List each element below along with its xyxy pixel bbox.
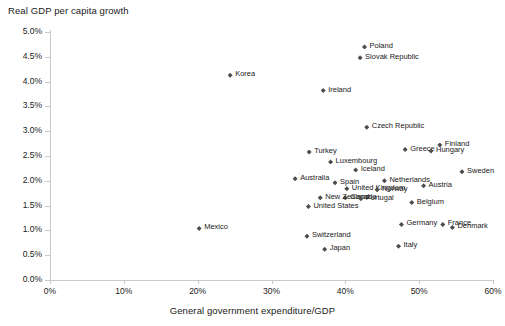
y-tick-label: 1.5% [2,201,42,210]
diamond-marker-icon [197,226,202,231]
x-axis-title: General government expenditure/GDP [0,305,505,316]
diamond-marker-icon [306,204,311,209]
diamond-marker-icon [318,195,323,200]
data-point-label: Ireland [328,86,351,94]
y-tick-label: 5.0% [2,27,42,36]
y-tick-label: 0.5% [2,250,42,259]
x-tick-label: 60% [473,287,505,296]
data-point-label: Sweden [467,167,494,175]
diamond-marker-icon [403,147,408,152]
diamond-marker-icon [293,176,298,181]
diamond-marker-icon [332,180,337,185]
diamond-marker-icon [322,247,327,252]
x-tick [50,280,51,284]
data-point-label: Italy [403,241,417,249]
data-point-label: Iceland [361,165,385,173]
data-point-label: Turkey [314,147,337,155]
x-tick [124,280,125,284]
data-point-label: United States [313,202,358,210]
diamond-marker-icon [440,222,445,227]
chart-title: Real GDP per capita growth [8,5,129,16]
diamond-marker-icon [396,244,401,249]
diamond-marker-icon [304,234,309,239]
y-tick-label: 1.0% [2,225,42,234]
data-point-label: Hungary [436,146,464,154]
data-point-label: Mexico [204,223,228,231]
diamond-marker-icon [399,222,404,227]
scatter-chart: Real GDP per capita growth 0.0%0.5%1.0%1… [0,0,505,326]
diamond-marker-icon [421,183,426,188]
data-point-label: Czech Republic [372,122,425,130]
diamond-marker-icon [328,159,333,164]
x-tick-label: 40% [325,287,365,296]
data-point-label: Germany [406,219,437,227]
x-tick [345,280,346,284]
data-point-label: Belgium [417,198,444,206]
data-point-label: Japan [330,244,350,252]
data-point-label: Austria [429,181,452,189]
diamond-marker-icon [362,44,367,49]
data-point-label: Denmark [457,222,487,230]
diamond-marker-icon [321,88,326,93]
y-tick-label: 2.0% [2,176,42,185]
x-tick [419,280,420,284]
x-tick [198,280,199,284]
diamond-marker-icon [228,73,233,78]
diamond-marker-icon [307,150,312,155]
x-tick [272,280,273,284]
y-tick-label: 4.0% [2,77,42,86]
y-tick-label: 0.0% [2,275,42,284]
data-point-label: Poland [370,42,393,50]
x-tick-label: 50% [399,287,439,296]
data-point-label: Portugal [366,194,394,202]
y-tick-label: 4.5% [2,52,42,61]
x-tick-label: 10% [104,287,144,296]
diamond-marker-icon [364,125,369,130]
x-tick-label: 0% [30,287,70,296]
diamond-marker-icon [409,200,414,205]
data-point-label: Slovak Republic [365,53,419,61]
diamond-marker-icon [353,167,358,172]
x-tick-label: 30% [252,287,292,296]
data-point-label: Korea [235,70,255,78]
x-tick [493,280,494,284]
diamond-marker-icon [459,169,464,174]
data-point-label: Switzerland [312,231,351,239]
y-tick-label: 3.0% [2,126,42,135]
y-tick-label: 3.5% [2,101,42,110]
x-tick-label: 20% [178,287,218,296]
diamond-marker-icon [344,186,349,191]
diamond-marker-icon [358,55,363,60]
y-tick-label: 2.5% [2,151,42,160]
data-point-label: Norway [382,185,407,193]
plot-area: PolandSlovak RepublicKoreaIrelandCzech R… [50,32,493,280]
data-point-label: Australia [300,174,329,182]
